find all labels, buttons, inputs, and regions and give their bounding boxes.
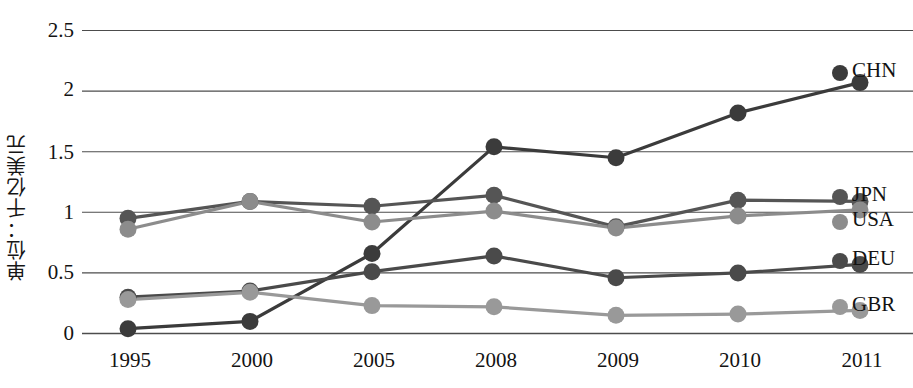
data-point-gbr-2000 (242, 284, 259, 301)
data-point-gbr-2005 (364, 297, 381, 314)
data-point-deu-2005 (364, 263, 381, 280)
data-point-deu-2009 (608, 269, 625, 286)
legend-label-gbr: GBR (852, 292, 895, 317)
legend-label-chn: CHN (852, 58, 896, 83)
chart-plot-area (0, 0, 913, 388)
data-point-chn-2010 (730, 104, 747, 121)
data-point-usa-2005 (364, 213, 381, 230)
legend-marker-chn (832, 65, 848, 81)
data-point-usa-2009 (608, 220, 625, 237)
gridlines (82, 31, 913, 334)
data-point-deu-2008 (486, 247, 503, 264)
data-point-usa-1995 (120, 221, 137, 238)
legend-label-jpn: JPN (852, 182, 887, 207)
data-point-usa-2008 (486, 203, 503, 220)
data-point-chn-1995 (120, 320, 137, 337)
data-point-gbr-2008 (486, 298, 503, 315)
data-point-chn-2000 (242, 313, 259, 330)
legend-marker-gbr (832, 299, 848, 315)
data-point-chn-2008 (486, 138, 503, 155)
data-point-jpn-2005 (364, 198, 381, 215)
line-chart: 单位：千亿美元 2.5 2 1.5 1 0.5 0 1995 2000 2005… (0, 0, 913, 388)
legend-marker-jpn (832, 189, 848, 205)
data-point-usa-2000 (242, 193, 259, 210)
data-point-chn-2005 (364, 245, 381, 262)
legend-marker-usa (832, 214, 848, 230)
data-point-deu-2010 (730, 264, 747, 281)
data-point-gbr-2010 (730, 306, 747, 323)
legend-label-usa: USA (852, 207, 894, 232)
data-point-chn-2009 (608, 149, 625, 166)
data-point-jpn-2010 (730, 192, 747, 209)
legend-label-deu: DEU (852, 246, 895, 271)
data-point-jpn-2008 (486, 187, 503, 204)
legend-markers (832, 65, 848, 315)
data-point-usa-2010 (730, 207, 747, 224)
data-point-gbr-2009 (608, 307, 625, 324)
legend-marker-deu (832, 253, 848, 269)
data-point-gbr-1995 (120, 291, 137, 308)
